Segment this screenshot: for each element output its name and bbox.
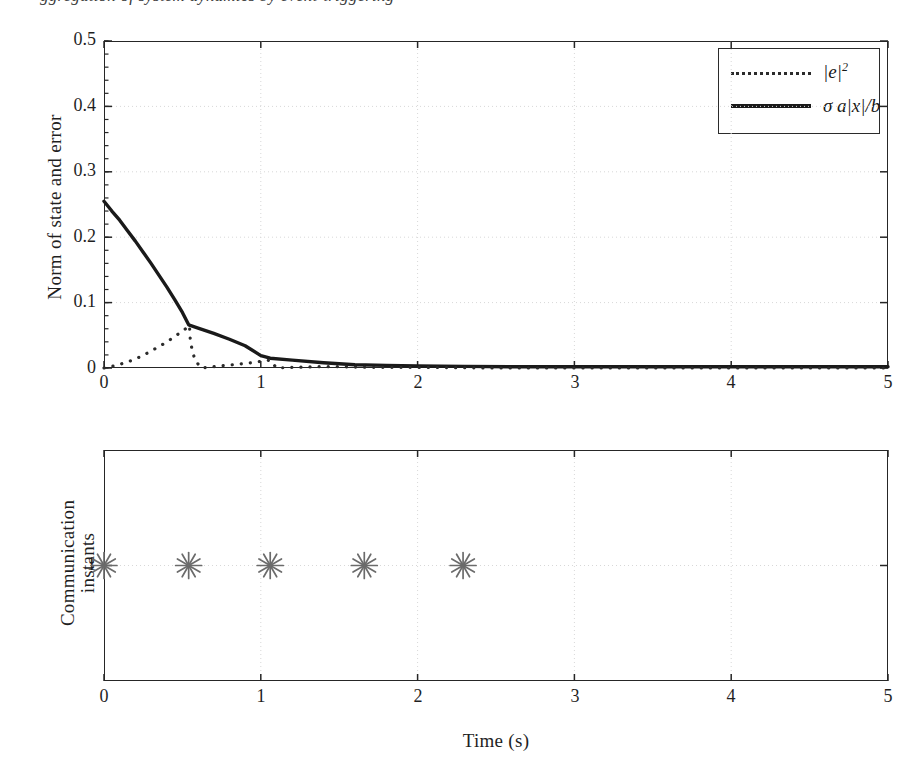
bottom-xtick-5: 5 (868, 686, 908, 707)
bottom-plot-frame (104, 450, 888, 681)
top-ytick-0.5: 0.5 (44, 29, 96, 50)
top-ytick-0.4: 0.4 (44, 95, 96, 116)
solid-line-swatch (729, 99, 813, 113)
dotted-line-swatch (729, 65, 813, 79)
legend-entry-error: |e|2 (729, 55, 869, 89)
bottom-xtick-3: 3 (555, 686, 595, 707)
top-ytick-0.3: 0.3 (44, 160, 96, 181)
top-xtick-5: 5 (868, 372, 908, 393)
top-xtick-1: 1 (241, 372, 281, 393)
top-legend: |e|2 σ a|x|/b (718, 48, 880, 134)
legend-label-error: |e|2 (823, 60, 848, 83)
bottom-ytick-1: 1 (44, 554, 96, 575)
cut-caption-sliver: ggregation of system dynamics by event-t… (0, 0, 924, 6)
figure-root: ggregation of system dynamics by event-t… (0, 0, 924, 774)
top-ytick-0.1: 0.1 (44, 291, 96, 312)
top-ytick-0.2: 0.2 (44, 226, 96, 247)
top-xtick-0: 0 (84, 372, 124, 393)
legend-entry-sigma: σ a|x|/b (729, 89, 869, 123)
bottom-xlabel: Time (s) (396, 730, 596, 752)
top-xtick-2: 2 (398, 372, 438, 393)
bottom-xtick-0: 0 (84, 686, 124, 707)
top-xtick-4: 4 (711, 372, 751, 393)
bottom-xtick-4: 4 (711, 686, 751, 707)
legend-label-sigma: σ a|x|/b (823, 95, 880, 117)
bottom-xtick-2: 2 (398, 686, 438, 707)
top-xtick-3: 3 (555, 372, 595, 393)
bottom-xtick-1: 1 (241, 686, 281, 707)
